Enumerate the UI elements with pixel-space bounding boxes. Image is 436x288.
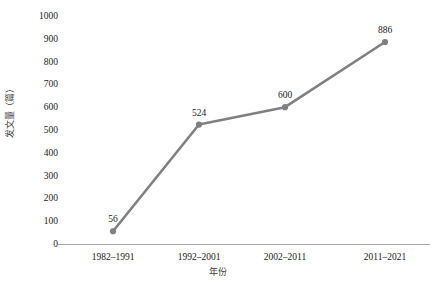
data-point-marker	[382, 39, 388, 45]
x-axis-tick-label: 2002–2011	[240, 251, 330, 263]
x-axis-title: 年份	[0, 266, 436, 278]
data-point-label: 524	[169, 108, 229, 119]
data-point-marker	[196, 121, 202, 127]
x-axis-tick-label: 1982–1991	[68, 251, 158, 263]
data-point-label: 600	[255, 90, 315, 101]
data-point-marker	[282, 104, 288, 110]
x-axis-tick-label: 2011–2021	[340, 251, 430, 263]
x-axis-tick-label: 1992–2001	[154, 251, 244, 263]
plot-area	[0, 0, 436, 288]
line-chart: 发文量（篇） 01002003004005006007008009001000 …	[0, 0, 436, 288]
data-point-label: 886	[355, 25, 415, 36]
data-point-marker	[110, 228, 116, 234]
series-line	[113, 42, 385, 231]
data-point-label: 56	[83, 214, 143, 225]
